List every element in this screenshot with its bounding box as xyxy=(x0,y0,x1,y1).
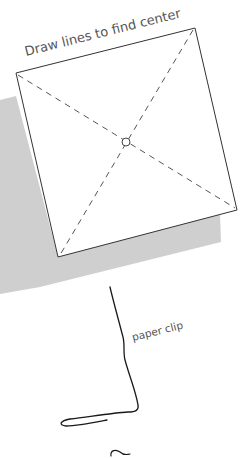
paper-clip-wire xyxy=(61,287,138,426)
find-center-diagram: Draw lines to find center paper clip xyxy=(0,0,249,458)
paper-clip-hook xyxy=(111,450,130,456)
paper-clip-label: paper clip xyxy=(131,319,185,343)
center-mark-circle xyxy=(122,138,130,146)
